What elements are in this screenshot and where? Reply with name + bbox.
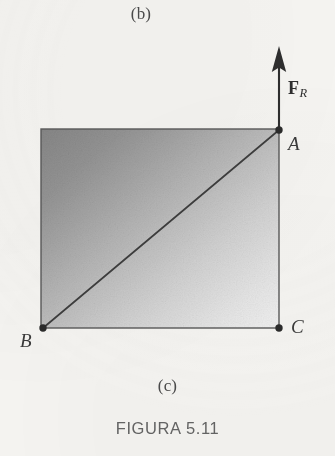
force-vector-fr — [272, 46, 286, 130]
vertex-dot-b — [39, 324, 46, 331]
point-label-c: C — [291, 317, 304, 336]
figure-page: (b) — [0, 0, 335, 456]
point-label-a: A — [288, 134, 300, 153]
figure-caption: FIGURA 5.11 — [0, 419, 335, 438]
subfigure-label-c: (c) — [0, 376, 335, 396]
vertex-dot-a — [275, 126, 282, 133]
vertex-dot-c — [275, 324, 282, 331]
force-vector-label: FR — [288, 79, 307, 100]
force-symbol: F — [288, 78, 299, 98]
point-label-b: B — [20, 331, 32, 350]
force-subscript: R — [300, 86, 308, 100]
